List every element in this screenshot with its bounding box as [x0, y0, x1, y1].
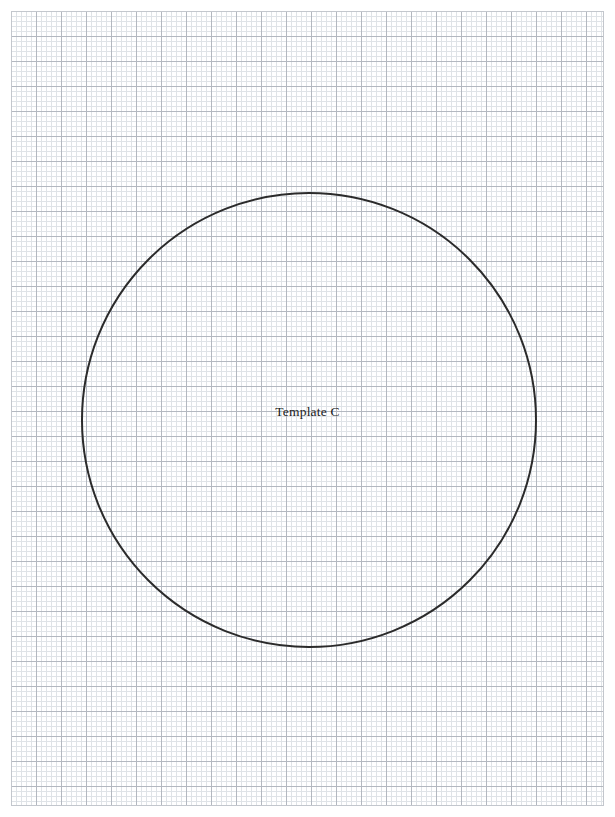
page-canvas: Template C: [0, 0, 615, 817]
template-label: Template C: [0, 404, 615, 420]
